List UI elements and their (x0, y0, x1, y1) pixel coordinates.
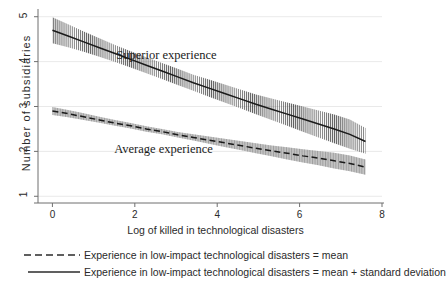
y-tick-label: 5 (18, 8, 29, 22)
legend-label-mean: Experience in low-impact technological d… (84, 249, 348, 261)
legend-key-dashed-icon (24, 248, 80, 262)
y-tick-label: 3 (18, 98, 29, 112)
x-tick-label: 2 (127, 209, 143, 220)
legend-item-mean: Experience in low-impact technological d… (0, 246, 403, 263)
y-tick-label: 2 (18, 143, 29, 157)
y-tick-label: 4 (18, 53, 29, 67)
legend-label-mean-plus-sd: Experience in low-impact technological d… (84, 266, 446, 278)
x-axis-title: Log of killed in technological disasters (0, 224, 403, 236)
plot-annotation-average: Average experience (114, 142, 213, 157)
x-tick-label: 8 (374, 209, 390, 220)
chart-legend: Experience in low-impact technological d… (0, 246, 403, 288)
x-tick-label: 6 (292, 209, 308, 220)
plot-annotation-superior: Superior experience (116, 48, 216, 63)
legend-key-solid-icon (24, 265, 80, 279)
y-tick-label: 1 (18, 188, 29, 202)
legend-item-mean-plus-sd: Experience in low-impact technological d… (0, 263, 403, 280)
x-axis-title-text: Log of killed in technological disasters (99, 224, 303, 236)
plot-canvas (0, 0, 403, 240)
x-tick-label: 4 (209, 209, 225, 220)
x-tick-label: 0 (44, 209, 60, 220)
